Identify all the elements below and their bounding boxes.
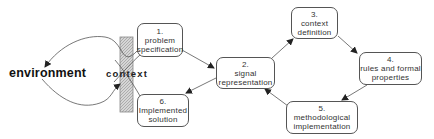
edge-environment-to-6	[42, 79, 120, 105]
step-label-line: specification	[137, 45, 184, 54]
step-label-line: context	[301, 19, 328, 28]
step-6-implemented-solution: 6. Implemented solution	[137, 94, 189, 127]
step-number: 2.	[242, 60, 249, 69]
step-label-line: signal	[234, 69, 256, 78]
step-2-signal-representation: 2. signal representation	[216, 57, 275, 89]
step-label-line: definition	[297, 28, 331, 37]
edge-5-to-2	[265, 89, 288, 106]
step-label-line: representation	[219, 78, 273, 87]
environment-label: environment	[9, 66, 86, 80]
step-4-rules-and-formal-properties: 4. rules and formal properties	[359, 52, 422, 85]
step-label-line: methodological	[294, 113, 351, 122]
edge-2-to-6	[186, 78, 216, 93]
step-number: 3.	[311, 10, 318, 19]
step-1-problem-specification: 1. problem specification	[137, 23, 183, 57]
step-number: 5.	[318, 104, 325, 113]
step-number: 6.	[159, 97, 166, 106]
step-label-line: Implemented	[139, 106, 187, 115]
step-label-line: solution	[148, 115, 177, 124]
step-label-line: implementation	[293, 122, 350, 131]
edge-2-to-3	[272, 39, 293, 58]
edge-3-to-4	[338, 36, 357, 53]
step-label-line: problem	[145, 36, 175, 45]
step-5-methodological-implementation: 5. methodological implementation	[286, 101, 358, 134]
edge-1-to-2	[182, 50, 214, 68]
step-label-line: properties	[372, 73, 410, 82]
step-number: 1.	[156, 27, 163, 36]
context-label: context	[106, 68, 148, 79]
step-number: 4.	[387, 55, 394, 64]
step-label-line: rules and formal	[360, 64, 421, 73]
edge-4-to-5	[342, 85, 367, 100]
step-3-context-definition: 3. context definition	[291, 7, 338, 39]
